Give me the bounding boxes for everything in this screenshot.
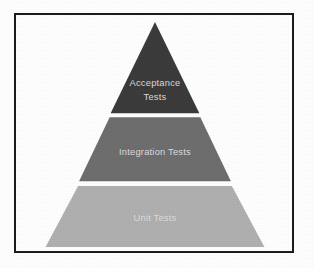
integration-tier-shape bbox=[79, 117, 231, 181]
pyramid-tier-integration[interactable]: Integration Tests bbox=[79, 117, 231, 181]
pyramid-tier-unit[interactable]: Unit Tests bbox=[46, 186, 265, 247]
diagram-frame: Acceptance Tests Integration Tests Unit … bbox=[14, 13, 294, 253]
test-pyramid-diagram: Acceptance Tests Integration Tests Unit … bbox=[16, 15, 292, 251]
diagram-root: Acceptance Tests Integration Tests Unit … bbox=[0, 0, 314, 268]
unit-tier-shape bbox=[46, 186, 265, 247]
acceptance-tier-shape bbox=[111, 22, 200, 113]
pyramid-tier-acceptance[interactable]: Acceptance Tests bbox=[111, 22, 200, 113]
